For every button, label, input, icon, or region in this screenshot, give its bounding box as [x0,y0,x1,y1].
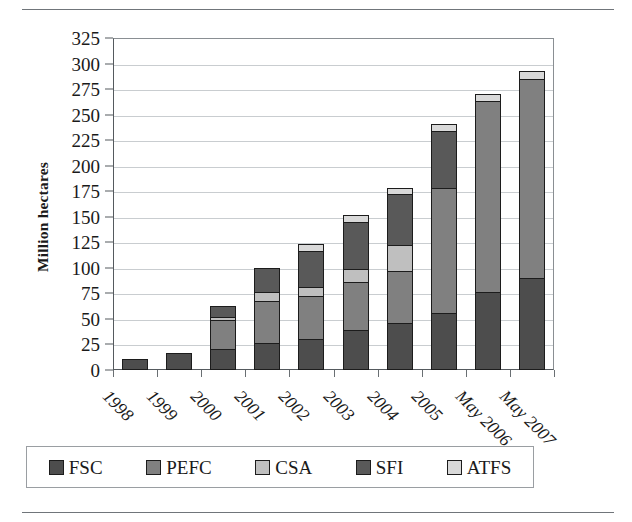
legend-swatch-icon [356,460,371,475]
legend-item-csa[interactable]: CSA [255,458,312,477]
stacked-bar[interactable] [343,215,369,370]
stacked-bar[interactable] [254,268,280,370]
x-axis-tick-label: 2003 [319,386,359,426]
x-axis-tick-label: 1998 [98,386,138,426]
y-axis-tick-mark [105,114,113,115]
x-axis-tick-mark [466,370,467,377]
bar-segment-pefc[interactable] [299,297,323,340]
bar-segment-pefc[interactable] [520,80,544,279]
bar-segment-fsc[interactable] [476,293,500,369]
bar-segment-csa[interactable] [299,288,323,297]
x-axis-tick-label: 2002 [275,386,315,426]
bar-segment-atfs[interactable] [476,95,500,102]
y-axis-tick-mark [105,293,113,294]
x-axis-tick-label: 2000 [186,386,226,426]
bar-segment-fsc[interactable] [255,344,279,369]
bar-slot [245,38,289,370]
bar-segment-fsc[interactable] [520,279,544,369]
bar-slot [466,38,510,370]
bar-segment-pefc[interactable] [388,272,412,324]
stacked-bar[interactable] [387,188,413,370]
stacked-bar[interactable] [122,359,148,370]
stacked-bar[interactable] [210,306,236,370]
bar-segment-pefc[interactable] [344,283,368,330]
bar-segment-atfs[interactable] [299,245,323,252]
stacked-bar[interactable] [475,94,501,370]
y-axis-tick-label: 125 [72,233,101,252]
y-axis-tick-mark [105,216,113,217]
bar-segment-sfi[interactable] [432,132,456,189]
page-rule-bottom [22,512,614,513]
x-axis-tick-mark [245,370,246,377]
stacked-bar-chart-figure: Million hectares 02550751001251501752002… [0,18,632,508]
y-axis-tick-mark [105,38,113,39]
bar-segment-sfi[interactable] [255,269,279,293]
bar-segment-sfi[interactable] [211,307,235,318]
legend-item-fsc[interactable]: FSC [49,458,103,477]
bar-segment-fsc[interactable] [211,350,235,369]
bar-segment-fsc[interactable] [123,360,147,369]
y-axis-tick-label: 325 [72,29,101,48]
x-axis-tick-mark [378,370,379,377]
y-axis-tick-mark [105,267,113,268]
y-axis-tick-mark [105,165,113,166]
x-axis-tick-mark [289,370,290,377]
stacked-bar[interactable] [519,71,545,370]
y-axis-tick-label: 50 [81,309,100,328]
x-axis-tick-mark [201,370,202,377]
y-axis-tick-label: 150 [72,207,101,226]
x-axis-tick-mark [113,370,114,377]
chart-legend: FSCPEFCCSASFIATFS [26,446,534,488]
x-axis-tick-label: 2004 [363,386,403,426]
bar-slot [378,38,422,370]
bar-segment-fsc[interactable] [167,354,191,369]
y-axis-tick-mark [105,318,113,319]
legend-swatch-icon [447,460,462,475]
legend-label: PEFC [166,458,211,477]
bar-slot [289,38,333,370]
y-axis-tick-mark [105,242,113,243]
legend-item-atfs[interactable]: ATFS [447,458,511,477]
bar-segment-atfs[interactable] [520,72,544,80]
stacked-bar[interactable] [431,124,457,370]
bar-segment-fsc[interactable] [388,324,412,369]
y-axis-tick-mark [105,63,113,64]
bar-segment-pefc[interactable] [255,302,279,344]
bar-segment-sfi[interactable] [388,195,412,246]
bar-segment-pefc[interactable] [432,189,456,315]
y-axis-tick-label: 75 [81,284,100,303]
bar-slot [422,38,466,370]
x-axis-tick-mark [334,370,335,377]
y-axis-tick-mark [105,370,113,371]
bar-segment-csa[interactable] [388,246,412,272]
bar-segment-pefc[interactable] [211,321,235,351]
y-axis-tick-label: 275 [72,80,101,99]
y-axis-tick-label: 100 [72,258,101,277]
y-axis-tick-mark [105,140,113,141]
y-axis-tick-mark [105,344,113,345]
bar-segment-sfi[interactable] [299,252,323,287]
bar-slot [334,38,378,370]
bar-segment-fsc[interactable] [299,340,323,369]
y-axis-tick-mark [105,191,113,192]
bar-slot [157,38,201,370]
bar-segment-fsc[interactable] [432,314,456,369]
bar-segment-csa[interactable] [255,293,279,302]
bar-segment-csa[interactable] [344,270,368,283]
y-axis-tick-labels: 0255075100125150175200225250275300325 [0,38,113,370]
bar-segment-pefc[interactable] [476,102,500,293]
stacked-bar[interactable] [166,353,192,370]
x-axis-tick-label: 2005 [407,386,447,426]
legend-item-pefc[interactable]: PEFC [146,458,211,477]
stacked-bar[interactable] [298,244,324,370]
page-rule-top [22,9,614,10]
x-axis-tick-mark [554,370,555,377]
bar-segment-atfs[interactable] [432,125,456,132]
bar-segment-sfi[interactable] [344,223,368,270]
bar-slot [201,38,245,370]
legend-label: CSA [275,458,312,477]
bar-segment-fsc[interactable] [344,331,368,369]
legend-item-sfi[interactable]: SFI [356,458,403,477]
legend-swatch-icon [255,460,270,475]
bar-segment-atfs[interactable] [344,216,368,223]
